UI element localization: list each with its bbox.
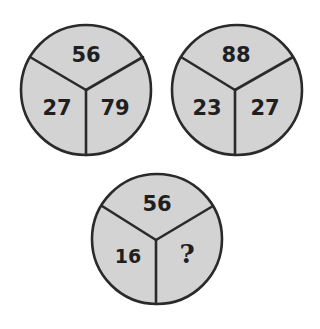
circle-2-left-number: 23 xyxy=(192,96,221,120)
puzzle-circle-3: 56 16 ? xyxy=(92,174,222,304)
puzzle-circle-1: 56 27 79 xyxy=(21,25,151,155)
circle-3-missing-number: ? xyxy=(179,239,194,269)
circle-1-top-number: 56 xyxy=(71,43,100,67)
circle-3-top-number: 56 xyxy=(142,192,171,216)
circle-1-right-number: 79 xyxy=(100,96,129,120)
puzzle-circle-2: 88 23 27 xyxy=(172,25,302,155)
circle-3-left-number: 16 xyxy=(115,245,141,267)
number-puzzle: 56 27 79 88 23 27 56 16 ? xyxy=(0,0,320,329)
circle-2-top-number: 88 xyxy=(221,43,250,67)
circle-2-right-number: 27 xyxy=(250,96,279,120)
circle-1-left-number: 27 xyxy=(42,96,71,120)
